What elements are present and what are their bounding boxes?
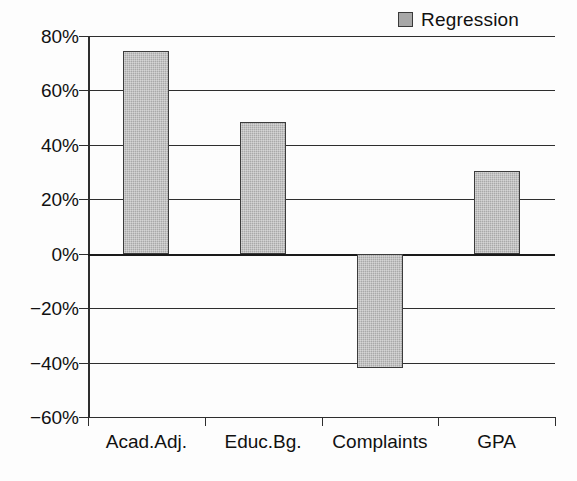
plot-area: 80% 60% 40% 20% 0% −20% −40% −60% bbox=[88, 36, 555, 417]
y-axis-label-0: 0% bbox=[52, 244, 79, 263]
x-axis-label-educ-bg: Educ.Bg. bbox=[225, 432, 302, 451]
y-axis-label-neg20: −20% bbox=[30, 299, 79, 318]
bar-chart: Regression 80% 60% 40% 20% 0% −20% −40% … bbox=[0, 0, 577, 481]
y-axis-label-60: 60% bbox=[41, 81, 79, 100]
x-tick-0 bbox=[88, 417, 89, 426]
y-tick-neg60 bbox=[79, 417, 88, 418]
x-tick-3 bbox=[438, 417, 439, 426]
y-tick-80 bbox=[79, 36, 88, 37]
bar-gpa bbox=[474, 171, 520, 254]
y-tick-neg20 bbox=[79, 308, 88, 309]
legend-label-regression: Regression bbox=[421, 10, 519, 29]
x-axis-label-complaints: Complaints bbox=[332, 432, 427, 451]
bar-acad-adj bbox=[123, 51, 169, 254]
y-tick-20 bbox=[79, 199, 88, 200]
y-tick-60 bbox=[79, 90, 88, 91]
y-tick-40 bbox=[79, 145, 88, 146]
gridline-neg20 bbox=[88, 308, 555, 309]
bar-educ-bg bbox=[240, 122, 286, 254]
bar-complaints bbox=[357, 254, 403, 368]
x-tick-1 bbox=[205, 417, 206, 426]
y-axis-label-neg40: −40% bbox=[30, 353, 79, 372]
y-axis-line bbox=[88, 36, 90, 417]
chart-legend: Regression bbox=[398, 6, 519, 32]
y-axis-label-neg60: −60% bbox=[30, 408, 79, 427]
legend-swatch-regression bbox=[398, 12, 413, 27]
y-axis-label-20: 20% bbox=[41, 190, 79, 209]
y-tick-neg40 bbox=[79, 363, 88, 364]
x-axis-label-acad-adj: Acad.Adj. bbox=[106, 432, 187, 451]
x-tick-2 bbox=[322, 417, 323, 426]
y-axis-label-40: 40% bbox=[41, 135, 79, 154]
gridline-neg40 bbox=[88, 363, 555, 364]
x-tick-4 bbox=[555, 417, 556, 426]
y-tick-0 bbox=[79, 254, 88, 255]
x-axis-label-gpa: GPA bbox=[477, 432, 516, 451]
gridline-80 bbox=[88, 36, 555, 37]
y-axis-label-80: 80% bbox=[41, 27, 79, 46]
gridline-zero bbox=[88, 254, 555, 256]
